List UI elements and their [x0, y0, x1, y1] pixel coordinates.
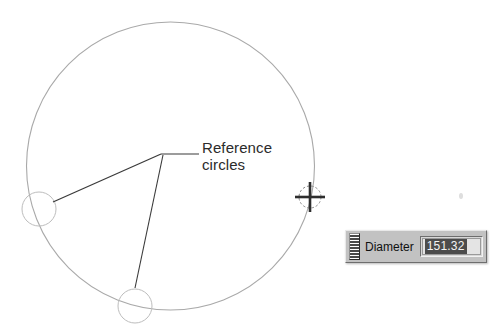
diameter-input-inner[interactable]: 151.32: [422, 238, 481, 255]
diameter-toolbar[interactable]: Diameter 151.32: [345, 230, 487, 263]
reference-circle-left[interactable]: [22, 192, 56, 226]
reference-circles-annotation: Reference circles: [202, 139, 272, 173]
annotation-line-2: circles: [202, 156, 272, 173]
diameter-value[interactable]: 151.32: [425, 239, 467, 254]
leader-to-bottom-circle: [135, 155, 163, 288]
annotation-line-1: Reference: [202, 139, 272, 156]
scan-speck-artifact: [459, 193, 463, 199]
toolbar-drag-grip[interactable]: [349, 233, 360, 260]
leader-to-left-circle: [53, 154, 161, 202]
diameter-label: Diameter: [365, 240, 414, 254]
screenshot-root: Reference circles Diameter 151.32: [0, 0, 504, 333]
diameter-input[interactable]: 151.32: [420, 236, 483, 257]
crosshair-cursor[interactable]: [295, 182, 325, 212]
